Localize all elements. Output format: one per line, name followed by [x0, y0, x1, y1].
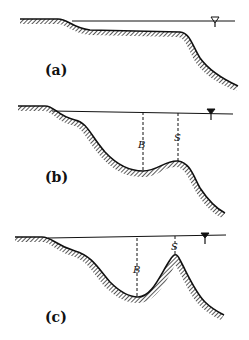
bed-hatching [15, 237, 224, 320]
dimension-label-B: B [137, 139, 145, 150]
panel-label-c: (c) [45, 309, 67, 325]
dimension-label-B: B [132, 264, 140, 275]
dimension-label-S: S [171, 241, 178, 252]
bed-hatching [18, 106, 225, 218]
panel-label-b: (b) [45, 169, 68, 185]
bed-profile [18, 106, 225, 213]
bed-profile [15, 237, 224, 315]
dimension-label-S: S [174, 132, 181, 143]
panel-b: B S (b) [18, 106, 233, 218]
bed-profile-diagram: (a) B S (b) B S (c) [0, 0, 249, 340]
water-level-icon [211, 17, 219, 27]
bed-hatching [20, 19, 238, 91]
panel-c: B S (c) [15, 233, 226, 325]
water-level-icon [207, 109, 215, 120]
panel-a: (a) [20, 17, 238, 91]
water-level-icon [201, 233, 209, 244]
water-surface-line [48, 235, 226, 238]
panel-label-a: (a) [45, 62, 67, 78]
